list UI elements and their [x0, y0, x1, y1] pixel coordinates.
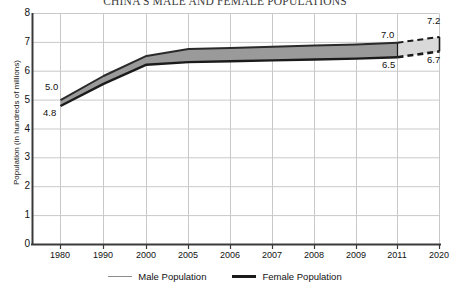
female-line-swatch-icon: [232, 275, 256, 278]
data-label-female-1980: 4.8: [43, 108, 56, 118]
data-label-female-2011: 6.5: [382, 60, 395, 70]
female-population-line: [61, 57, 398, 106]
male-line-swatch-icon: [108, 276, 132, 277]
legend-item-female[interactable]: Female Population: [232, 271, 341, 282]
legend-label-male: Male Population: [138, 271, 206, 282]
data-label-female-2020: 6.7: [427, 55, 440, 65]
data-label-male-2020: 7.2: [427, 16, 440, 26]
legend-label-female: Female Population: [262, 271, 341, 282]
population-band-historical: [61, 43, 398, 106]
legend-item-male[interactable]: Male Population: [108, 271, 206, 282]
data-label-male-2011: 7.0: [381, 30, 394, 40]
data-label-male-1980: 5.0: [45, 82, 58, 92]
chart-legend: Male Population Female Population: [0, 271, 450, 282]
chart-container: CHINA'S MALE AND FEMALE POPULATIONS Popu…: [0, 0, 450, 289]
plot-area: [0, 0, 450, 289]
